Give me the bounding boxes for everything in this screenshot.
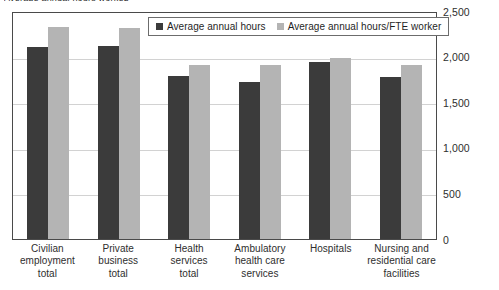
bar [48,27,69,239]
bar-group [366,13,437,239]
y-axis-tick-label: 2,500 [443,6,470,18]
bar-group [13,13,84,239]
bar [309,62,330,239]
x-axis-category-label: Hospitals [295,243,366,280]
y-axis-tick-label: 500 [443,188,461,200]
label-line: Hospitals [296,243,365,255]
label-line: services [225,268,294,280]
bar [98,46,119,239]
label-line: total [155,268,224,280]
bar [380,77,401,239]
label-line: facilities [367,268,436,280]
label-line: total [13,268,82,280]
label-line: Health [155,243,224,255]
label-line: Ambulatory [225,243,294,255]
legend-label: Average annual hours [167,21,266,32]
y-axis-tick-label: 1,000 [443,142,470,154]
label-line: health care [225,255,294,267]
legend-swatch-icon [277,23,284,30]
bar-group [84,13,155,239]
bar [260,65,281,239]
y-axis-tick-label: 2,000 [443,51,470,63]
legend-item: Average annual hours [156,21,266,32]
bar-group [225,13,296,239]
x-axis-category-label: Civilianemploymenttotal [12,243,83,280]
legend-label: Average annual hours/FTE worker [288,21,442,32]
label-line: Civilian [13,243,82,255]
bar [401,65,422,239]
label-line: business [84,255,153,267]
bar-chart: Average annual hours worked 2,5002,0001,… [0,0,499,290]
bar [119,28,140,239]
y-axis-tick-label: 1,500 [443,97,470,109]
x-axis-category-label: Nursing andresidential carefacilities [366,243,437,280]
bar-group [154,13,225,239]
bar-groups [13,13,436,239]
y-axis-tick-label: 0 [443,234,449,246]
chart-title-cropped: Average annual hours worked [4,0,434,1]
plot-area [12,12,437,240]
label-line: Private [84,243,153,255]
legend-swatch-icon [156,23,163,30]
x-axis-category-label: Privatebusinesstotal [83,243,154,280]
label-line: employment [13,255,82,267]
x-axis-labels: CivilianemploymenttotalPrivatebusinessto… [12,243,437,280]
x-axis-category-label: Ambulatoryhealth careservices [224,243,295,280]
bar [168,76,189,239]
bar [189,65,210,239]
chart-legend: Average annual hoursAverage annual hours… [148,17,449,36]
bar [239,82,260,239]
bar [27,47,48,239]
y-axis-labels: 2,5002,0001,5001,0005000 [443,0,497,290]
bar [330,58,351,239]
label-line: total [84,268,153,280]
label-line: residential care [367,255,436,267]
bar-group [295,13,366,239]
label-line: services [155,255,224,267]
x-axis-category-label: Healthservicestotal [154,243,225,280]
legend-item: Average annual hours/FTE worker [277,21,442,32]
label-line: Nursing and [367,243,436,255]
